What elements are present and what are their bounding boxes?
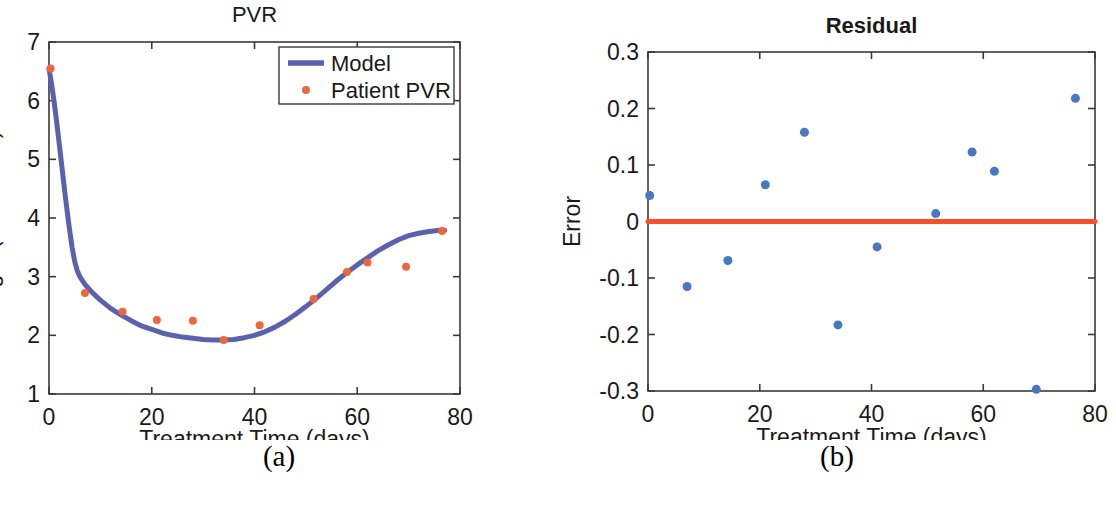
data-point (873, 242, 882, 251)
y-tick-label: 3 (27, 264, 40, 290)
x-axis-title: Treatment Time (days) (756, 424, 986, 440)
y-tick-label: -0.1 (599, 265, 639, 291)
panel-a-caption: (a) (0, 440, 558, 473)
data-point (800, 128, 809, 137)
y-tick-label: 0.3 (607, 39, 639, 65)
data-point (256, 321, 264, 329)
legend-label: Patient PVR (331, 78, 451, 103)
x-axis-title: Treatment Time (days) (139, 426, 369, 440)
y-axis-title: Error (559, 196, 585, 247)
y-tick-label: 7 (27, 29, 40, 55)
y-tick-label: 4 (27, 205, 40, 231)
y-tick-label: 0 (626, 209, 639, 235)
series-line-model (49, 68, 445, 340)
panel-b-residual: 020406080-0.3-0.2-0.100.10.20.3ResidualT… (558, 0, 1116, 506)
data-point (683, 282, 692, 291)
panel-b-caption: (b) (558, 440, 1116, 473)
data-point (364, 259, 372, 267)
data-point (47, 64, 55, 72)
data-point (761, 180, 770, 189)
data-point (833, 320, 842, 329)
legend-label: Model (331, 51, 391, 76)
data-point (189, 317, 197, 325)
y-tick-label: -0.3 (599, 378, 639, 404)
y-tick-label: -0.2 (599, 322, 639, 348)
data-point (402, 263, 410, 271)
panel-a-pvr: 0204060801234567PVRTreatment Time (days)… (0, 0, 558, 506)
data-point (343, 268, 351, 276)
data-point (931, 209, 940, 218)
data-point (118, 308, 126, 316)
pvr-chart: 0204060801234567PVRTreatment Time (days)… (0, 0, 558, 440)
data-point (990, 167, 999, 176)
x-tick-label: 80 (1082, 401, 1108, 427)
data-point (310, 295, 318, 303)
residual-chart: 020406080-0.3-0.2-0.100.10.20.3ResidualT… (558, 0, 1116, 440)
series-points-error (645, 94, 1080, 394)
y-tick-label: 5 (27, 146, 40, 172)
data-point (1032, 385, 1041, 394)
data-point (153, 316, 161, 324)
data-point (968, 148, 977, 157)
legend-dot-swatch (302, 86, 310, 94)
y-tick-label: 0.1 (607, 152, 639, 178)
y-tick-label: 2 (27, 322, 40, 348)
x-tick-label: 0 (642, 401, 655, 427)
y-tick-label: 1 (27, 381, 40, 407)
y-axis-title: log10(Viral Load) (0, 131, 3, 306)
legend[interactable]: ModelPatient PVR (279, 47, 454, 104)
data-point (723, 256, 732, 265)
y-tick-label: 0.2 (607, 96, 639, 122)
plot-title: PVR (232, 2, 277, 27)
x-tick-label: 0 (43, 404, 56, 430)
data-point (645, 191, 654, 200)
plot-title: Residual (826, 13, 918, 38)
data-point (220, 336, 228, 344)
data-point (1071, 94, 1080, 103)
y-tick-label: 6 (27, 88, 40, 114)
figure-container: 0204060801234567PVRTreatment Time (days)… (0, 0, 1116, 506)
x-tick-label: 80 (447, 404, 473, 430)
data-point (81, 289, 89, 297)
data-point (438, 227, 446, 235)
